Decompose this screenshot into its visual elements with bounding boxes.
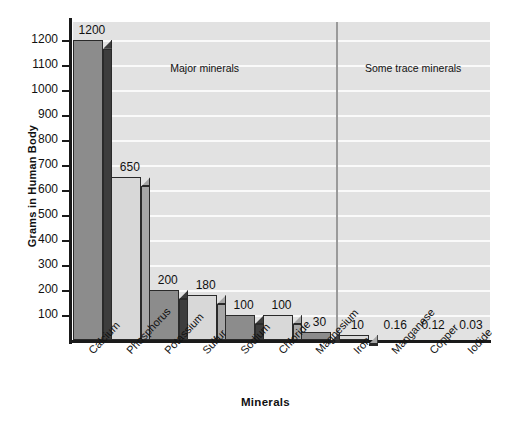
y-axis-tick [62,215,70,217]
mineral-bar-chart: Grams in Human Body 12001100100090080070… [0,0,531,421]
y-axis-tick [62,315,70,317]
y-axis-tick [62,240,70,242]
y-axis-tick-label: 400 [0,232,58,246]
gridline [73,140,490,142]
value-label-chloride: 100 [259,298,305,312]
y-axis-tick [62,115,70,117]
y-axis-tick [62,190,70,192]
y-axis-tick [62,140,70,142]
y-axis-line [69,18,72,344]
y-axis-tick-label: 1000 [0,82,58,96]
y-axis-tick-label: 200 [0,282,58,296]
value-label-sulfur: 180 [183,278,229,292]
value-label-calcium: 1200 [69,23,115,37]
group-annotation: Major minerals [73,62,336,74]
y-axis-tick [62,165,70,167]
y-axis-tick [62,40,70,42]
y-axis-tick-label: 500 [0,207,58,221]
bar-calcium [73,40,103,340]
y-axis-tick-label: 700 [0,157,58,171]
y-axis-tick [62,265,70,267]
gridline [73,115,490,117]
gridline [73,40,490,42]
y-axis-tick [62,290,70,292]
y-axis-tick [62,90,70,92]
group-annotation: Some trace minerals [336,62,490,74]
y-axis-tick-label: 900 [0,107,58,121]
bar-phosphorus [111,177,141,340]
y-axis-tick-label: 100 [0,307,58,321]
gridline [73,90,490,92]
y-axis-tick-label: 1100 [0,57,58,71]
y-axis-tick-label: 1200 [0,32,58,46]
y-axis-tick-label: 300 [0,257,58,271]
y-axis-tick-label: 800 [0,132,58,146]
y-axis-tick-label: 600 [0,182,58,196]
x-axis-title: Minerals [0,396,531,408]
y-axis-tick [62,65,70,67]
value-label-phosphorus: 650 [107,160,153,174]
